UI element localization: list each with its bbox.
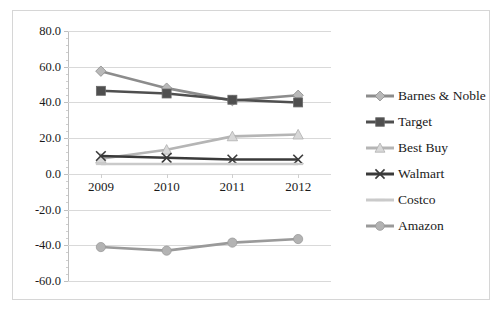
- plot-area: 80.060.040.020.00.0-20.0-40.0-60.0 20092…: [68, 31, 331, 281]
- series-line: [101, 135, 298, 159]
- legend-item-walmart[interactable]: Walmart: [365, 161, 497, 187]
- y-axis-label: 20.0: [39, 131, 61, 146]
- y-axis-label: 60.0: [39, 59, 61, 74]
- data-point-marker: [96, 242, 105, 251]
- gridline: [68, 281, 331, 282]
- legend-item-costco[interactable]: Costco: [365, 187, 497, 213]
- y-axis-label: 80.0: [39, 24, 61, 39]
- legend-item-target[interactable]: Target: [365, 109, 497, 135]
- legend-marker-icon: [365, 167, 395, 181]
- y-axis-label: 0.0: [45, 166, 61, 181]
- data-point-marker: [294, 234, 303, 243]
- data-point-marker: [228, 238, 237, 247]
- data-point-marker: [228, 95, 237, 104]
- y-axis-label: 40.0: [39, 95, 61, 110]
- legend-marker-icon: [365, 193, 395, 207]
- data-point-marker: [96, 86, 105, 95]
- data-point-marker: [96, 66, 106, 76]
- legend-marker-icon: [365, 115, 395, 129]
- legend-item-label: Best Buy: [398, 141, 448, 155]
- legend-item-label: Barnes & Noble: [398, 89, 486, 103]
- data-point-marker: [294, 98, 303, 107]
- legend-item-label: Amazon: [398, 219, 444, 233]
- data-point-marker: [162, 246, 171, 255]
- y-axis-label: -20.0: [35, 202, 61, 217]
- series-barnes-noble: [96, 66, 304, 106]
- series-line: [101, 239, 298, 251]
- chart-legend: Barnes & NobleTargetBest BuyWalmartCostc…: [365, 83, 497, 239]
- legend-item-label: Target: [398, 115, 432, 129]
- y-axis-tick: [64, 281, 68, 282]
- legend-item-amazon[interactable]: Amazon: [365, 213, 497, 239]
- legend-marker-icon: [365, 89, 395, 103]
- y-axis-label: -60.0: [35, 274, 61, 289]
- legend-item-label: Costco: [398, 193, 436, 207]
- chart-container: 80.060.040.020.00.0-20.0-40.0-60.0 20092…: [12, 10, 490, 300]
- series-line: [101, 156, 298, 160]
- y-axis-label: -40.0: [35, 238, 61, 253]
- legend-marker-icon: [365, 219, 395, 233]
- legend-item-barnes-noble[interactable]: Barnes & Noble: [365, 83, 497, 109]
- series-amazon: [96, 234, 302, 255]
- data-point-marker: [162, 89, 171, 98]
- legend-item-label: Walmart: [398, 167, 444, 181]
- legend-item-best-buy[interactable]: Best Buy: [365, 135, 497, 161]
- series-layer: [68, 31, 331, 281]
- legend-marker-icon: [365, 141, 395, 155]
- series-walmart: [96, 151, 303, 164]
